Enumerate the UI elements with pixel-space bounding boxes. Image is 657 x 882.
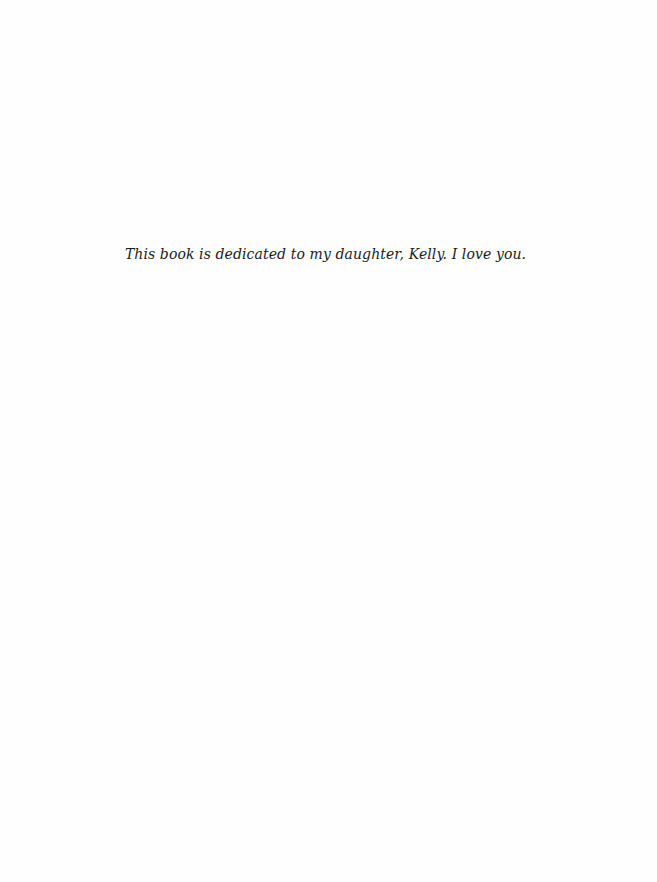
dedication-page: This book is dedicated to my daughter, K… <box>0 0 657 882</box>
dedication-text: This book is dedicated to my daughter, K… <box>0 244 651 264</box>
